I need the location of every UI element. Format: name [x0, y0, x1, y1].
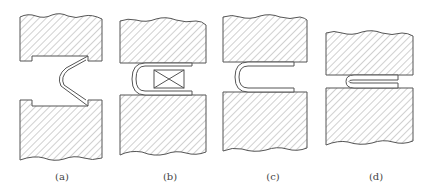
upper-die-a: [20, 14, 102, 61]
panel-label-b: (b): [163, 171, 177, 182]
lower-die-b: [120, 95, 206, 155]
panel-d: [326, 31, 413, 145]
panel-a: [20, 14, 102, 161]
lower-die-a: [20, 100, 102, 160]
workpiece-b: [132, 63, 192, 95]
upper-die-d: [326, 31, 413, 75]
panel-label-d: (d): [369, 171, 383, 182]
lower-die-c: [223, 92, 307, 151]
upper-die-b: [120, 18, 206, 63]
panel-b: [120, 18, 206, 155]
panel-c: [223, 15, 307, 152]
panel-label-c: (c): [266, 171, 279, 182]
workpiece-c: [235, 62, 294, 92]
upper-die-c: [223, 15, 307, 62]
panel-label-a: (a): [55, 171, 69, 182]
workpiece-a: [59, 56, 88, 106]
workpiece-d: [346, 75, 398, 88]
insert-block-b: [154, 70, 184, 88]
die-bending-diagram: [0, 0, 430, 195]
lower-die-d: [326, 88, 413, 145]
